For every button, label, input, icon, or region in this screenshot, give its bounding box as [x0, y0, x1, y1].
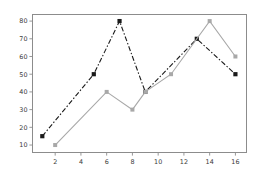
y-tick-label: 70 [19, 35, 27, 43]
x-tick-label: 12 [180, 158, 188, 166]
data-point-marker [105, 90, 109, 94]
data-point-marker [169, 72, 173, 76]
x-tick-label: 16 [231, 158, 239, 166]
x-tick-label: 10 [154, 158, 162, 166]
y-tick-label: 30 [19, 106, 27, 114]
data-point-marker [40, 134, 44, 138]
y-tick-label: 50 [19, 71, 27, 79]
data-point-marker [233, 72, 237, 76]
chart-screenshot: 1020304050607080246810121416 [0, 0, 262, 176]
line-chart: 1020304050607080246810121416 [0, 0, 262, 176]
y-tick-label: 10 [19, 141, 27, 149]
x-tick-label: 8 [130, 158, 134, 166]
data-point-marker [208, 19, 212, 23]
data-point-marker [233, 55, 237, 59]
x-axis: 246810121416 [53, 153, 239, 166]
y-axis: 1020304050607080 [19, 17, 32, 149]
data-point-marker [130, 108, 134, 112]
y-tick-label: 80 [19, 17, 27, 25]
x-tick-label: 4 [79, 158, 83, 166]
plot-background [32, 14, 247, 153]
x-tick-label: 6 [105, 158, 109, 166]
x-tick-label: 14 [206, 158, 214, 166]
data-point-marker [92, 72, 96, 76]
figure-canvas: 1020304050607080246810121416 [0, 0, 262, 176]
y-tick-label: 20 [19, 124, 27, 132]
x-tick-label: 2 [53, 158, 57, 166]
data-point-marker [53, 143, 57, 147]
y-tick-label: 40 [19, 88, 27, 96]
y-tick-label: 60 [19, 53, 27, 61]
data-point-marker [117, 19, 121, 23]
data-point-marker [143, 90, 147, 94]
